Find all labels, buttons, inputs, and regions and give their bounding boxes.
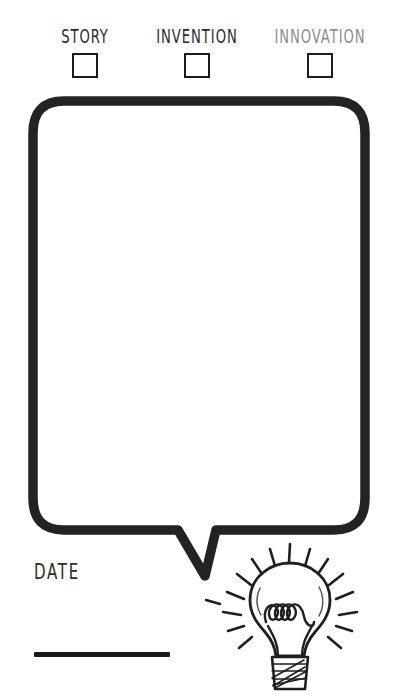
date-field[interactable]: DATE [34, 558, 184, 580]
speech-bubble[interactable] [24, 92, 384, 592]
category-invention[interactable]: INVENTION [140, 24, 254, 78]
category-row: STORY INVENTION INNOVATION [0, 24, 405, 86]
speech-bubble-outline [33, 101, 365, 576]
bulb-base-hatching [272, 660, 307, 688]
filament-coil [265, 604, 314, 625]
checkbox-story[interactable] [72, 53, 98, 78]
worksheet-page: STORY INVENTION INNOVATION DATE [0, 0, 405, 694]
date-label: DATE [34, 558, 166, 583]
light-rays [206, 544, 357, 648]
checkbox-innovation[interactable] [307, 53, 333, 78]
category-label-invention: INVENTION [148, 24, 246, 47]
category-story[interactable]: STORY [36, 24, 134, 78]
lightbulb-icon [206, 538, 378, 694]
category-label-innovation: INNOVATION [265, 24, 375, 47]
category-label-story: STORY [43, 24, 127, 47]
category-innovation[interactable]: INNOVATION [256, 24, 384, 78]
date-input-line[interactable] [34, 652, 170, 657]
checkbox-invention[interactable] [184, 53, 210, 78]
